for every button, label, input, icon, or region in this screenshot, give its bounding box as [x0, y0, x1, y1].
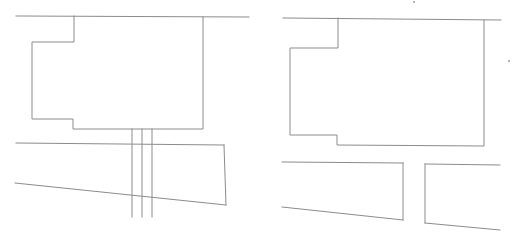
lower-lot-left-top-edge: [282, 162, 403, 163]
lower-lot-right-edge: [224, 145, 226, 205]
speck-mark: [413, 1, 415, 3]
lower-lot-bottom-edge: [15, 183, 226, 205]
road-edge-line: [283, 18, 501, 20]
site-plan-diagram: [0, 0, 513, 241]
building-outline: [32, 16, 203, 129]
lower-lot-right-bottom-edge: [425, 223, 500, 230]
left-panel: [15, 16, 249, 217]
lower-lot-right-top-edge: [425, 164, 500, 165]
specks: [413, 1, 510, 62]
building-outline: [290, 18, 484, 146]
diagram-svg: [0, 0, 513, 241]
right-panel: [282, 18, 501, 230]
road-edge-line: [16, 16, 249, 17]
lower-lot-top-edge: [16, 143, 224, 145]
speck-mark: [508, 60, 510, 62]
lower-lot-left-bottom-edge: [282, 207, 403, 220]
